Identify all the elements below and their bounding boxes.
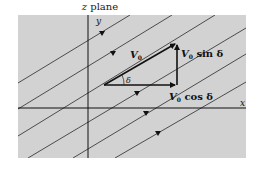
z-plane-diagram: y x δ V0 V0 sin δ V0 cos δ — [0, 0, 258, 175]
cos-label: V0 cos δ — [169, 91, 213, 103]
x-axis-label: x — [240, 98, 245, 108]
plane-panel — [18, 15, 246, 158]
y-axis-label: y — [95, 16, 102, 26]
sin-label: V0 sin δ — [181, 48, 224, 60]
angle-label: δ — [126, 76, 131, 85]
